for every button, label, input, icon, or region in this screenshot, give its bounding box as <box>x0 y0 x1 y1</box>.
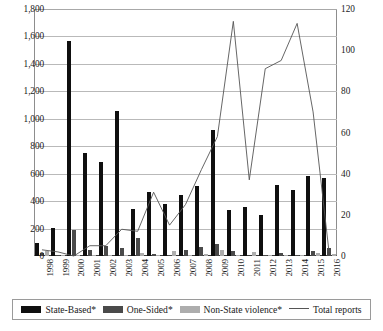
bar-non-state-violence--2010 <box>236 255 240 256</box>
bar-state-based--2011 <box>243 207 247 256</box>
x-axis-tick-label: 2011 <box>253 259 262 276</box>
gridline <box>34 64 337 65</box>
bar-state-based--2013 <box>275 185 279 256</box>
legend-label-non-state-violence: Non-State violence* <box>204 305 283 315</box>
x-axis-tick-label: 2014 <box>301 259 310 277</box>
bar-one-sided--2016 <box>327 248 331 256</box>
bar-one-sided--2000 <box>72 230 76 256</box>
chart-legend: State-Based* One-Sided* Non-State violen… <box>12 299 371 320</box>
x-axis-tick-label: 1999 <box>62 259 71 277</box>
bar-one-sided--2002 <box>104 246 108 256</box>
bar-non-state-violence--2015 <box>316 253 320 256</box>
left-axis-tick-label: 800 <box>8 142 44 151</box>
left-axis-tick-label: 400 <box>8 197 44 206</box>
bar-state-based--2016 <box>322 178 326 256</box>
bar-non-state-violence--2011 <box>252 252 256 256</box>
legend-swatch-one-sided-icon <box>103 306 123 313</box>
legend-item-one-sided: One-Sided* <box>103 305 173 315</box>
right-axis-tick-label: 100 <box>341 46 375 55</box>
x-axis-tick-label: 2004 <box>141 259 150 277</box>
bar-non-state-violence--1999 <box>61 255 65 256</box>
x-axis-tick-label: 2002 <box>109 259 118 277</box>
bar-one-sided--2005 <box>152 254 156 256</box>
bar-one-sided--2003 <box>120 248 124 256</box>
bar-state-based--1999 <box>51 228 55 256</box>
bar-one-sided--2001 <box>88 250 92 256</box>
legend-item-total-reports: Total reports <box>289 305 362 315</box>
x-axis-tick-label: 2008 <box>205 259 214 277</box>
bar-state-based--2014 <box>291 190 295 256</box>
bar-state-based--2005 <box>147 192 151 256</box>
bar-state-based--2001 <box>83 153 87 256</box>
right-axis-tick-label: 40 <box>341 169 375 178</box>
bar-non-state-violence--2008 <box>204 254 208 256</box>
legend-label-total-reports: Total reports <box>313 305 362 315</box>
bar-one-sided--2013 <box>279 253 283 256</box>
x-axis-tick-label: 2010 <box>237 259 246 277</box>
bar-state-based--2000 <box>67 41 71 256</box>
gridline <box>34 119 337 120</box>
bar-state-based--2008 <box>195 186 199 256</box>
x-axis-tick-label: 2016 <box>333 259 342 277</box>
bar-non-state-violence--2007 <box>188 255 192 256</box>
gridline <box>34 9 337 10</box>
bar-one-sided--2015 <box>311 251 315 256</box>
x-axis-tick-label: 2013 <box>285 259 294 277</box>
right-axis-tick-label: 120 <box>341 5 375 14</box>
x-axis-tick-label: 1998 <box>46 259 55 277</box>
x-axis-tick-label: 2005 <box>157 259 166 277</box>
bar-one-sided--2008 <box>199 247 203 256</box>
bar-one-sided--2010 <box>231 251 235 256</box>
bar-non-state-violence--2002 <box>108 255 112 256</box>
right-axis-tick-label: 20 <box>341 210 375 219</box>
x-axis-tick-label: 2006 <box>173 259 182 277</box>
right-axis-tick-label: 0 <box>341 252 375 261</box>
left-axis-tick-label: 200 <box>8 224 44 233</box>
bar-non-state-violence--2000 <box>76 255 80 256</box>
bar-state-based--2006 <box>163 204 167 256</box>
chart-container: 02004006008001,0001,2001,4001,6001,800 0… <box>0 0 383 331</box>
legend-label-one-sided: One-Sided* <box>127 305 173 315</box>
left-axis-tick-label: 1,400 <box>8 59 44 68</box>
legend-line-total-reports-icon <box>289 308 309 309</box>
x-axis-tick-label: 2009 <box>221 259 230 277</box>
bar-one-sided--2006 <box>168 255 172 256</box>
bar-state-based--2003 <box>115 111 119 256</box>
bar-state-based--2010 <box>227 210 231 256</box>
x-axis-tick-label: 2001 <box>93 259 102 277</box>
gridline <box>34 146 337 147</box>
bar-state-based--2012 <box>259 215 263 256</box>
left-axis-tick-label: 1,800 <box>8 5 44 14</box>
x-axis-tick-label: 2012 <box>269 259 278 277</box>
x-axis-tick-label: 2015 <box>317 259 326 277</box>
gridline <box>34 91 337 92</box>
bar-state-based--2015 <box>306 176 310 256</box>
left-axis-tick-label: 1,000 <box>8 114 44 123</box>
legend-label-state-based: State-Based* <box>45 305 96 315</box>
bar-non-state-violence--2013 <box>284 255 288 256</box>
bar-state-based--2007 <box>179 195 183 256</box>
bar-state-based--2009 <box>211 130 215 256</box>
x-axis-tick-label: 2003 <box>125 259 134 277</box>
left-axis-tick-label: 600 <box>8 169 44 178</box>
left-axis-tick-label: 1,200 <box>8 87 44 96</box>
bar-one-sided--2007 <box>184 250 188 256</box>
x-axis-tick-label: 2000 <box>77 259 86 277</box>
right-axis-tick-label: 60 <box>341 128 375 137</box>
bar-state-based--2002 <box>99 162 103 256</box>
x-axis-tick-label: 2007 <box>189 259 198 277</box>
left-axis-tick-label: 0 <box>8 252 44 261</box>
bar-state-based--2004 <box>131 209 135 256</box>
bar-one-sided--2012 <box>263 255 267 256</box>
bar-non-state-violence--2009 <box>220 250 224 256</box>
bar-non-state-violence--2004 <box>140 253 144 256</box>
bar-one-sided--2009 <box>215 244 219 256</box>
bar-non-state-violence--2001 <box>92 255 96 256</box>
legend-item-non-state-violence: Non-State violence* <box>180 305 283 315</box>
legend-swatch-non-state-icon <box>180 306 200 313</box>
bar-non-state-violence--2005 <box>156 255 160 256</box>
bar-non-state-violence--2012 <box>268 255 272 256</box>
gridline <box>34 174 337 175</box>
bar-non-state-violence--2006 <box>172 251 176 256</box>
bar-non-state-violence--2003 <box>124 255 128 256</box>
